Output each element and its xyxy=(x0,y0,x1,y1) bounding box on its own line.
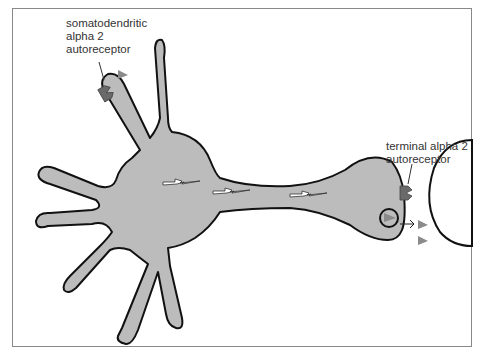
somatodendritic-label-pointer xyxy=(99,62,104,80)
transmitter-triangle-icon xyxy=(418,236,428,245)
terminal-label-pointer xyxy=(408,164,412,184)
transmitter-triangle-icon xyxy=(418,220,428,229)
transmitter-triangle-icon xyxy=(118,70,128,79)
terminal-label: terminal alpha 2 autoreceptor xyxy=(386,140,468,166)
somatodendritic-label: somatodendritic alpha 2 autoreceptor xyxy=(66,17,147,56)
terminal-receptor-icon xyxy=(400,186,412,200)
